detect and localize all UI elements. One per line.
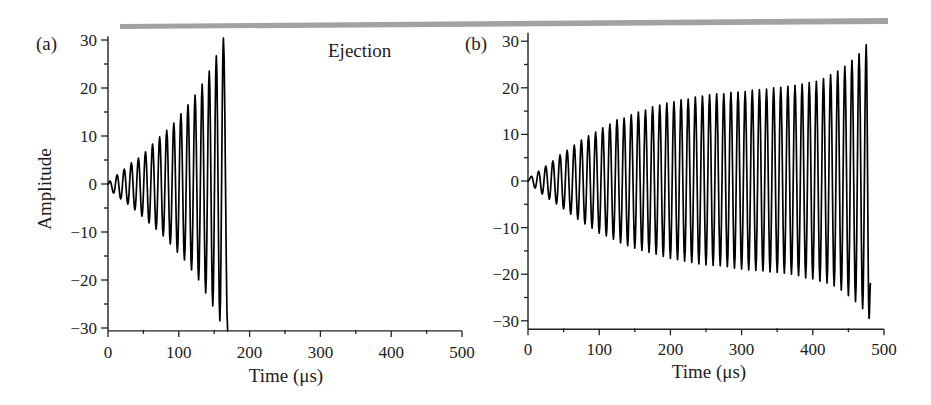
y-tick-label: 10	[502, 125, 519, 144]
figure: (a) Ejection Amplitude Time (μs) 3020100…	[0, 0, 931, 405]
waveform-line-a	[108, 38, 228, 331]
y-tick-label: −10	[492, 219, 519, 238]
x-tick-label: 400	[800, 340, 826, 359]
x-tick-label: 300	[729, 340, 755, 359]
x-tick-label: 0	[524, 340, 533, 359]
x-tick-label: 300	[308, 343, 334, 362]
x-axis-label: Time (μs)	[672, 361, 746, 383]
x-tick-label: 0	[104, 343, 113, 362]
x-tick-label: 400	[378, 343, 404, 362]
panel-label-a: (a)	[36, 33, 57, 55]
y-tick-label: 20	[502, 79, 519, 98]
x-tick-label: 200	[237, 343, 263, 362]
y-axis-label: Amplitude	[34, 148, 55, 229]
y-tick-label: 0	[89, 175, 98, 194]
y-tick-label: 30	[80, 31, 97, 50]
y-tick-label: 10	[80, 127, 97, 146]
x-tick-label: 100	[586, 340, 612, 359]
x-tick-label: 500	[449, 343, 475, 362]
waveform-line-b	[528, 45, 870, 319]
x-tick-label: 100	[166, 343, 192, 362]
y-tick-label: −20	[492, 265, 519, 284]
y-tick-label: 0	[511, 172, 520, 191]
y-tick-label: −30	[492, 312, 519, 331]
header-rule	[120, 18, 888, 29]
x-tick-label: 200	[658, 340, 684, 359]
axes-a: 3020100−10−20−300100200300400500	[70, 31, 474, 362]
x-axis-label: Time (μs)	[249, 365, 323, 387]
y-tick-label: −20	[70, 271, 97, 290]
y-tick-label: −10	[70, 223, 97, 242]
x-tick-label: 500	[871, 340, 897, 359]
panel-a: (a) Ejection Amplitude Time (μs) 3020100…	[34, 31, 475, 387]
panel-label-b: (b)	[465, 33, 487, 55]
y-tick-label: 20	[80, 79, 97, 98]
panel-b: (b) Time (μs) 3020100−10−20−300100200300…	[465, 32, 897, 383]
y-tick-label: 30	[502, 32, 519, 51]
y-tick-label: −30	[70, 319, 97, 338]
ejection-annotation: Ejection	[328, 40, 392, 61]
